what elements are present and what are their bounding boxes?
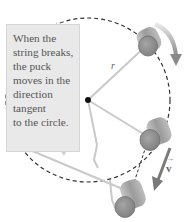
center-pivot-icon — [85, 97, 91, 103]
velocity-label: → v — [166, 162, 172, 174]
explanation-callout: When the string breaks, the puck moves i… — [6, 24, 80, 152]
radius-label: r — [111, 60, 115, 71]
callout-text: When the string breaks, the puck moves i… — [13, 31, 75, 129]
puck-top — [134, 24, 164, 56]
puck-middle — [140, 115, 174, 150]
circular-motion-diagram: When the string breaks, the puck moves i… — [0, 0, 185, 222]
velocity-symbol: v — [166, 162, 172, 174]
vector-arrow-mark: → — [166, 154, 174, 163]
puck-bottom — [115, 177, 148, 217]
